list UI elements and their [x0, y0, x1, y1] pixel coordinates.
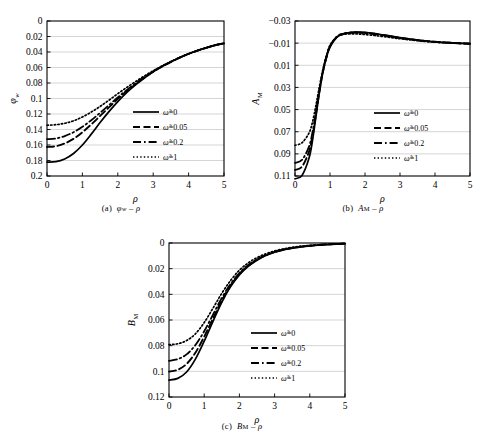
- y-tick-label: 0.12: [148, 392, 165, 402]
- plot-frame: [295, 21, 470, 176]
- y-tick-label: 0.02: [26, 32, 43, 42]
- caption-a: (a) φw – ρ: [0, 203, 242, 213]
- caption-c: (c) BM – ρ: [121, 421, 363, 431]
- y-tick-label: 0.2: [31, 171, 43, 181]
- x-tick-label: 5: [468, 180, 473, 190]
- panel-b: −0.03−0.010.010.030.050.070.090.11012345…: [242, 0, 484, 232]
- y-tick-label: −0.03: [269, 16, 291, 26]
- y-tick-label: 0.04: [26, 47, 43, 57]
- y-tick-label: 0.11: [274, 171, 291, 181]
- legend-label: ω̃=0.05: [404, 124, 428, 133]
- y-tick-label: 0.12: [26, 109, 43, 119]
- series-line-dashdot: [295, 32, 470, 162]
- x-tick-label: 2: [363, 180, 368, 190]
- series-line-dashed: [169, 244, 345, 372]
- y-tick-label: 0.14: [26, 125, 43, 135]
- panel-c: 00.020.040.060.080.10.12012345ρBMω̃=0ω̃=…: [121, 225, 363, 447]
- y-axis-label: BM: [126, 314, 139, 327]
- chart-phi-w: 00.020.040.060.080.10.120.140.160.180.20…: [0, 0, 242, 205]
- legend: ω̃=0ω̃=0.05ω̃=0.2ω̃=1: [133, 108, 187, 162]
- series-line-dashed: [295, 32, 470, 170]
- series-line-solid: [295, 32, 470, 179]
- legend-label: ω̃=1: [404, 154, 418, 163]
- y-tick-label: 0.18: [26, 156, 43, 166]
- x-tick-label: 5: [343, 401, 348, 411]
- y-tick-label: 0.04: [148, 290, 165, 300]
- legend-label: ω̃=0: [163, 108, 177, 117]
- legend-label: ω̃=0.2: [404, 139, 424, 148]
- legend: ω̃=0ω̃=0.05ω̃=0.2ω̃=1: [251, 329, 305, 383]
- legend: ω̃=0ω̃=0.05ω̃=0.2ω̃=1: [374, 109, 428, 163]
- y-tick-label: 0.16: [26, 140, 43, 150]
- x-tick-label: 4: [307, 401, 312, 411]
- x-tick-label: 4: [186, 180, 191, 190]
- x-tick-label: 1: [202, 401, 207, 411]
- series-line-dashdot: [47, 43, 224, 139]
- x-tick-label: 3: [272, 401, 277, 411]
- y-tick-label: 0.01: [274, 61, 291, 71]
- x-tick-label: 0: [167, 401, 172, 411]
- legend-label: ω̃=1: [163, 153, 177, 162]
- caption-b: (b) AM – ρ: [242, 203, 484, 213]
- y-axis-label: AM: [250, 92, 263, 106]
- series-line-dotted: [295, 34, 470, 145]
- y-tick-label: 0.03: [274, 83, 291, 93]
- y-tick-label: 0.1: [31, 94, 43, 104]
- x-tick-label: 3: [151, 180, 156, 190]
- y-tick-label: 0.08: [148, 341, 165, 351]
- chart-a-m: −0.03−0.010.010.030.050.070.090.11012345…: [242, 0, 484, 205]
- series-line-dashdot: [169, 244, 345, 361]
- legend-label: ω̃=0.05: [163, 123, 187, 132]
- legend-label: ω̃=0.05: [281, 344, 305, 353]
- x-tick-label: 3: [398, 180, 403, 190]
- x-tick-label: 0: [45, 180, 50, 190]
- y-tick-label: 0: [38, 16, 43, 26]
- x-tick-label: 5: [222, 180, 227, 190]
- x-tick-label: 0: [293, 180, 298, 190]
- y-tick-label: 0.07: [274, 127, 291, 137]
- legend-label: ω̃=0.2: [281, 359, 301, 368]
- y-tick-label: 0.02: [148, 264, 165, 274]
- x-tick-label: 4: [433, 180, 438, 190]
- y-tick-label: 0.06: [26, 63, 43, 73]
- legend-label: ω̃=0: [281, 329, 295, 338]
- y-tick-label: 0.05: [274, 105, 291, 115]
- chart-b-m: 00.020.040.060.080.10.12012345ρBMω̃=0ω̃=…: [121, 225, 363, 425]
- legend-label: ω̃=0: [404, 109, 418, 118]
- x-tick-label: 2: [115, 180, 120, 190]
- legend-label: ω̃=0.2: [163, 138, 183, 147]
- y-tick-label: 0.1: [153, 367, 165, 377]
- series-line-solid: [47, 43, 224, 162]
- y-tick-label: 0.09: [274, 149, 291, 159]
- x-tick-label: 2: [237, 401, 242, 411]
- y-tick-label: 0.06: [148, 315, 165, 325]
- legend-label: ω̃=1: [281, 374, 295, 383]
- panel-a: 00.020.040.060.080.10.120.140.160.180.20…: [0, 0, 242, 232]
- y-axis-label: φw: [7, 93, 20, 104]
- x-tick-label: 1: [80, 180, 85, 190]
- x-tick-label: 1: [328, 180, 333, 190]
- y-tick-label: −0.01: [269, 39, 291, 49]
- series-line-solid: [169, 244, 345, 380]
- y-tick-label: 0.08: [26, 78, 43, 88]
- y-tick-label: 0: [160, 238, 165, 248]
